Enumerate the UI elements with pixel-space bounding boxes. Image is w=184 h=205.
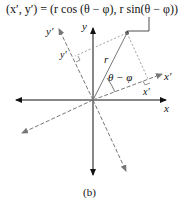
label-y-prime-axis: y′	[45, 25, 54, 37]
radius-line	[93, 33, 127, 100]
figure-caption: (b)	[83, 186, 96, 199]
label-x-prime-projection: x′	[142, 86, 150, 97]
x-prime-axis	[22, 74, 162, 133]
projection-to-y-prime	[75, 33, 127, 56]
label-x: x	[163, 102, 169, 114]
label-y-prime-projection: y′	[59, 49, 67, 60]
right-angle-x-prime	[143, 81, 150, 85]
right-angle-y-prime	[76, 56, 80, 62]
label-angle: θ − φ	[108, 71, 132, 83]
label-r: r	[104, 53, 109, 65]
label-x-prime-axis: x′	[163, 70, 172, 82]
rotated-axes-diagram: x y x′ y′ x′ y′ r θ − φ (b)	[0, 0, 184, 205]
label-y: y	[81, 20, 87, 32]
formula-pointer	[127, 17, 149, 31]
